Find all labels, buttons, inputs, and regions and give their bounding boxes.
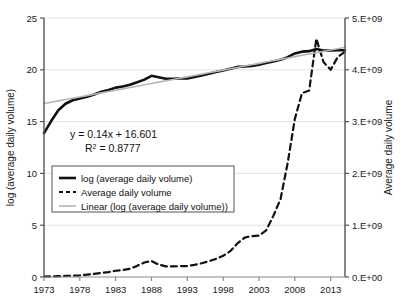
x-tick-label: 1998 <box>213 284 234 295</box>
trend-annotation: y = 0.14x + 16.601R2 = 0.8777 <box>70 128 157 154</box>
x-tick-label: 1988 <box>141 284 162 295</box>
y2-tick-label: 5.E+09 <box>352 13 382 24</box>
y-axis-left-title: log (average daily volume) <box>5 89 16 206</box>
trend-equation: y = 0.14x + 16.601 <box>70 128 157 140</box>
y-tick-label: 15 <box>26 116 37 127</box>
x-tick-label: 1973 <box>33 284 54 295</box>
x-tick-label: 2013 <box>320 284 341 295</box>
legend: log (average daily volume)Average daily … <box>52 166 234 212</box>
x-tick-label: 2003 <box>248 284 269 295</box>
legend-label-2: Average daily volume <box>81 187 172 198</box>
x-axis-ticks: 197319781983198819931998200320082013 <box>33 277 341 295</box>
y-tick-label: 20 <box>26 64 37 75</box>
y2-tick-label: 0.E+00 <box>352 272 382 283</box>
y2-tick-label: 1.E+09 <box>352 220 382 231</box>
y2-tick-label: 3.E+09 <box>352 116 382 127</box>
x-tick-label: 1978 <box>69 284 90 295</box>
y-tick-label: 5 <box>32 220 37 231</box>
y-tick-label: 10 <box>26 168 37 179</box>
chart-svg: 05101520250.E+001.E+092.E+093.E+094.E+09… <box>0 0 404 306</box>
x-tick-label: 2008 <box>284 284 305 295</box>
series-line-2 <box>44 39 345 277</box>
y2-tick-label: 4.E+09 <box>352 64 382 75</box>
chart-container: 05101520250.E+001.E+092.E+093.E+094.E+09… <box>0 0 404 306</box>
y-axis-left-ticks: 0510152025 <box>26 13 44 283</box>
y2-tick-label: 2.E+09 <box>352 168 382 179</box>
y-axis-right-ticks: 0.E+001.E+092.E+093.E+094.E+095.E+09 <box>345 13 382 283</box>
legend-label-3: Linear (log (average daily volume)) <box>81 201 228 212</box>
y-tick-label: 25 <box>26 13 37 24</box>
legend-label-1: log (average daily volume) <box>81 173 192 184</box>
y-tick-label: 0 <box>32 272 37 283</box>
series-line-1 <box>44 49 345 133</box>
series-line-3 <box>44 47 345 103</box>
series-group <box>44 39 345 277</box>
r-squared: R2 = 0.8777 <box>85 142 141 154</box>
x-tick-label: 1993 <box>177 284 198 295</box>
y-axis-right-title: Average daily volume <box>383 99 394 195</box>
x-tick-label: 1983 <box>105 284 126 295</box>
